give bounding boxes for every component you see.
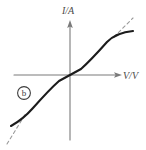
y-axis-label: I/A	[61, 5, 75, 16]
y-axis	[67, 20, 73, 140]
figure-container: I/A V/V b	[0, 0, 146, 150]
iv-characteristic-chart: I/A V/V b	[0, 0, 146, 150]
panel-label-text: b	[22, 88, 27, 98]
x-axis-label: V/V	[123, 70, 140, 81]
panel-label: b	[18, 87, 31, 100]
iv-curve	[11, 31, 133, 126]
